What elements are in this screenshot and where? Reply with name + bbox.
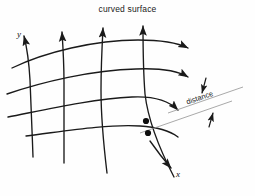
mesh-v-curves [24,26,174,177]
u-curve-3 [8,97,178,117]
point-upper [143,118,149,124]
figure-title: curved surface [0,4,255,14]
point-lower [145,130,151,136]
figure-canvas: curved surface [0,0,255,196]
v-curve-1 [24,36,33,157]
u-curve-2 [7,69,188,94]
u-curve-1 [12,40,188,68]
distance-band [140,87,243,133]
curved-surface-diagram [0,0,255,196]
v-curve-4 [143,26,174,177]
distance-arrows [202,78,213,127]
v-curve-2 [62,32,64,163]
mesh-u-curves [7,40,188,137]
band-line-bottom [140,101,232,133]
x-axis-arrow [150,141,171,168]
x-axis-label: x [176,169,180,179]
distance-arrow-bottom [209,113,213,127]
y-axis-label: y [17,29,21,39]
